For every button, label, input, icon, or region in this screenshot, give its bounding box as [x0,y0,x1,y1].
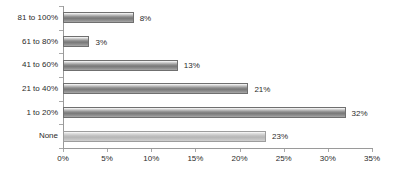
bar-row: 21% [63,83,372,94]
bar-value-label: 3% [95,37,107,46]
x-axis-tick-label: 30% [320,154,336,163]
x-axis-tick-label: 20% [232,154,248,163]
category-label: 81 to 100% [18,13,58,22]
bar-value-label: 21% [254,84,270,93]
category-label: 21 to 40% [22,84,58,93]
bar-row: 13% [63,60,372,71]
bar-row: 32% [63,107,372,118]
category-label: 61 to 80% [22,37,58,46]
bar[interactable] [63,131,266,142]
bar[interactable] [63,83,248,94]
y-axis-tick [59,124,63,125]
x-axis-tick-label: 35% [364,154,380,163]
bar-value-label: 8% [140,13,152,22]
y-axis-tick [59,77,63,78]
bar-row: 8% [63,12,372,23]
x-axis-tick-label: 0% [57,154,69,163]
category-label: None [39,131,58,140]
y-axis-tick [59,30,63,31]
x-axis-tick [107,149,108,152]
bar-value-label: 13% [184,61,200,70]
x-axis-tick [240,149,241,152]
bar[interactable] [63,60,178,71]
x-axis-tick [372,149,373,152]
x-axis-tick [328,149,329,152]
y-axis-tick [59,148,63,149]
x-axis-tick [195,149,196,152]
bar-value-label: 23% [272,132,288,141]
bar[interactable] [63,12,134,23]
x-axis-tick-label: 5% [101,154,113,163]
y-axis-tick [59,6,63,7]
bar-chart: 81 to 100%61 to 80%41 to 60%21 to 40%1 t… [0,0,396,175]
x-axis-tick-label: 25% [276,154,292,163]
bar[interactable] [63,36,89,47]
category-label: 1 to 20% [26,108,58,117]
y-axis-tick [59,101,63,102]
bar-row: 3% [63,36,372,47]
plot-area: 8%3%13%21%32%23% [63,6,372,148]
x-axis-tick-label: 15% [187,154,203,163]
x-axis-tick [63,149,64,152]
category-label: 41 to 60% [22,60,58,69]
bar[interactable] [63,107,346,118]
x-axis-tick-label: 10% [143,154,159,163]
bar-row: 23% [63,131,372,142]
category-axis-labels: 81 to 100%61 to 80%41 to 60%21 to 40%1 t… [0,0,58,175]
x-axis-tick [151,149,152,152]
bar-value-label: 32% [352,108,368,117]
y-axis-tick [59,53,63,54]
x-axis-line [63,148,373,149]
x-axis-tick [284,149,285,152]
